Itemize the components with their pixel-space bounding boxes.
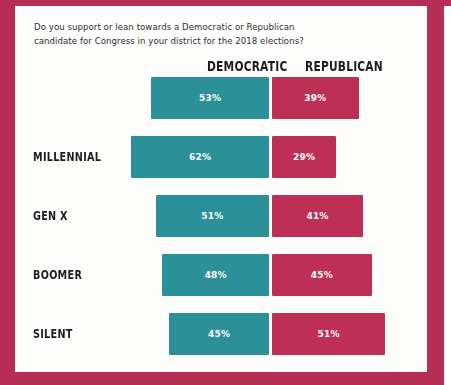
question-line-1: Do you support or lean towards a Democra…: [34, 20, 334, 34]
frame-band-top: [0, 0, 451, 6]
bar-democratic: 51%: [156, 195, 269, 237]
bar-value-democratic: 45%: [208, 329, 230, 339]
bar-value-republican: 29%: [293, 152, 315, 162]
frame-band-left: [0, 0, 15, 385]
chart-row: 53%39%: [17, 77, 426, 121]
bar-value-republican: 45%: [311, 270, 333, 280]
row-label-millennial: MILLENNIAL: [33, 149, 101, 163]
bar-republican: 45%: [272, 254, 372, 296]
chart-row: MILLENNIAL62%29%: [17, 136, 426, 180]
bar-democratic: 53%: [151, 77, 269, 119]
question-line-2: candidate for Congress in your district …: [34, 34, 334, 48]
printed-page-frame: Do you support or lean towards a Democra…: [0, 0, 451, 385]
bar-value-republican: 41%: [306, 211, 328, 221]
bar-democratic: 45%: [169, 313, 269, 355]
bar-value-democratic: 51%: [201, 211, 223, 221]
bar-value-democratic: 48%: [205, 270, 227, 280]
bar-value-democratic: 62%: [189, 152, 211, 162]
question-text: Do you support or lean towards a Democra…: [34, 20, 334, 48]
bar-democratic: 62%: [131, 136, 269, 178]
chart-row: BOOMER48%45%: [17, 254, 426, 298]
column-header-democratic: DEMOCRATIC: [207, 58, 287, 75]
bar-democratic: 48%: [162, 254, 269, 296]
chart-row: SILENT45%51%: [17, 313, 426, 357]
row-label-silent: SILENT: [33, 326, 73, 340]
infographic-sheet: Do you support or lean towards a Democra…: [17, 8, 426, 372]
bar-value-democratic: 53%: [199, 93, 221, 103]
bar-republican: 39%: [272, 77, 359, 119]
bar-value-republican: 51%: [318, 329, 340, 339]
frame-band-bottom: [0, 372, 444, 385]
bar-republican: 51%: [272, 313, 385, 355]
frame-band-right: [427, 0, 444, 385]
chart-row: GEN X51%41%: [17, 195, 426, 239]
row-label-boomer: BOOMER: [33, 267, 82, 281]
column-header-republican: REPUBLICAN: [305, 58, 383, 75]
bar-republican: 29%: [272, 136, 336, 178]
bar-republican: 41%: [272, 195, 363, 237]
row-label-gen-x: GEN X: [33, 208, 68, 222]
bar-value-republican: 39%: [304, 93, 326, 103]
diverging-bar-chart: 53%39%MILLENNIAL62%29%GEN X51%41%BOOMER4…: [17, 76, 426, 372]
